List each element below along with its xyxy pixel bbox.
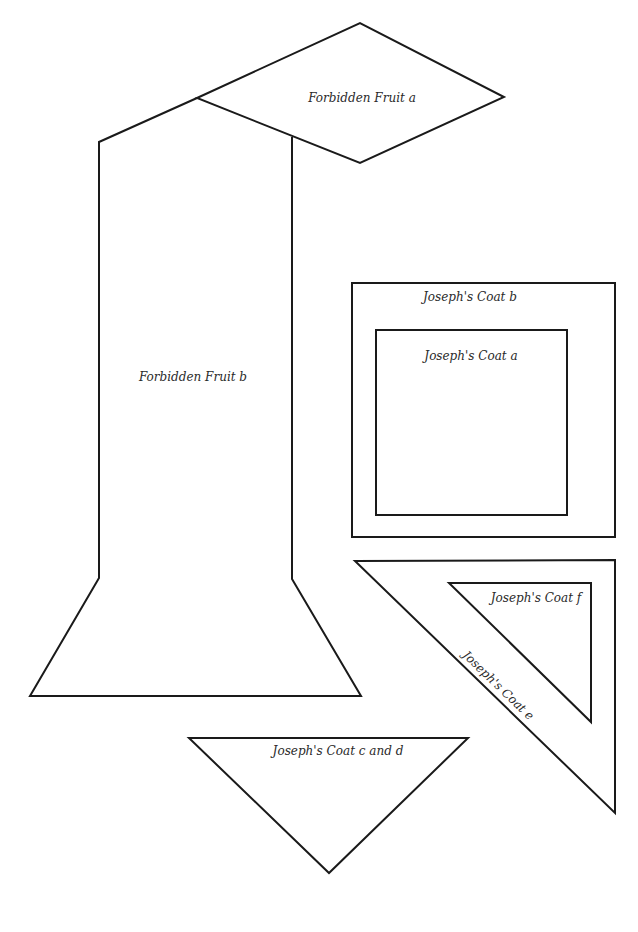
piece-josephs-coat-c-and-d: Joseph's Coat c and d: [189, 738, 468, 873]
josephs-coat-f-label: Joseph's Coat f: [488, 591, 584, 605]
forbidden-fruit-b-label: Forbidden Fruit b: [138, 370, 247, 384]
piece-josephs-coat-b: Joseph's Coat b: [352, 283, 615, 537]
josephs-coat-c-and-d-outline: [189, 738, 468, 873]
piece-josephs-coat-a: Joseph's Coat a: [376, 330, 567, 515]
piece-forbidden-fruit-b: Forbidden Fruit b: [30, 98, 361, 696]
josephs-coat-c-and-d-label: Joseph's Coat c and d: [270, 744, 404, 758]
josephs-coat-a-label: Joseph's Coat a: [421, 349, 517, 363]
josephs-coat-b-label: Joseph's Coat b: [420, 290, 517, 304]
piece-forbidden-fruit-a: Forbidden Fruit a: [197, 23, 504, 163]
josephs-coat-b-outline: [352, 283, 615, 537]
forbidden-fruit-a-label: Forbidden Fruit a: [307, 91, 416, 105]
forbidden-fruit-b-outline: [30, 98, 361, 696]
pattern-canvas: Forbidden Fruit a Forbidden Fruit b Jose…: [0, 0, 638, 932]
